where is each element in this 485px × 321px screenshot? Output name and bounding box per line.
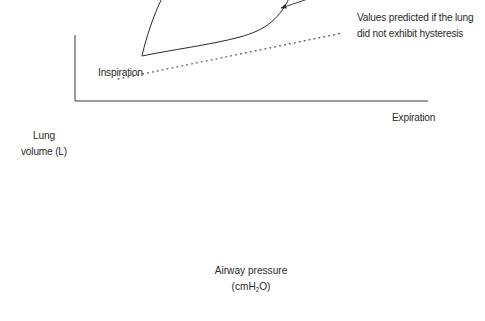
y-axis-label-line-2: volume (L) (18, 143, 71, 159)
x-axis-label-line-1: Airway pressure (203, 262, 300, 278)
expiration-label: Expiration (392, 109, 435, 125)
expiration-curve (142, 0, 298, 56)
y-axis-label-line-1: Lung (18, 127, 71, 143)
inspiration-label: Inspiration (98, 64, 143, 80)
x-axis-unit-prefix: (cmH (232, 280, 256, 292)
x-axis-label-unit: (cmH2O) (203, 278, 300, 298)
no-hysteresis-dotted-line (118, 33, 343, 79)
prediction-label-line-2: did not exhibit hysteresis (357, 25, 473, 41)
expiration-arrow (281, 0, 407, 8)
x-axis-label: Airway pressure (cmH2O) (203, 262, 300, 298)
prediction-label-line-1: Values predicted if the lung (357, 9, 473, 25)
y-axis-label: Lung volume (L) (18, 127, 71, 159)
prediction-label: Values predicted if the lung did not exh… (357, 9, 473, 41)
x-axis-unit-suffix: O) (259, 280, 270, 292)
